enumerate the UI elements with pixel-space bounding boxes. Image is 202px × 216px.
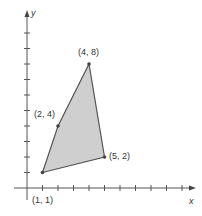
y-axis-label: y <box>31 9 36 18</box>
vertex-label-2-4: (2, 4) <box>34 110 55 119</box>
vertex-dot <box>87 62 91 66</box>
y-axis-arrow-icon <box>25 10 30 17</box>
coordinate-plane <box>0 0 202 216</box>
vertex-dot <box>41 171 45 175</box>
vertex-label-1-1: (1, 1) <box>32 196 53 205</box>
vertex-dot <box>103 155 107 159</box>
x-axis-label: x <box>189 197 194 206</box>
x-axis-arrow-icon <box>189 186 196 191</box>
vertex-label-4-8: (4, 8) <box>78 48 99 57</box>
vertex-label-5-2: (5, 2) <box>109 152 130 161</box>
vertex-dot <box>56 124 60 128</box>
